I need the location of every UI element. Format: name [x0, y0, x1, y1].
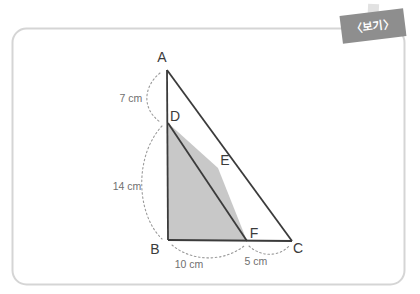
vertex-label-a: A: [157, 49, 167, 65]
dimension-arc-fc: [249, 246, 289, 254]
vertex-label-d: D: [170, 108, 180, 124]
dimension-label-bf: 10 cm: [175, 258, 204, 270]
figure-tag: 〈보기〉: [338, 0, 406, 44]
figure-container: 〈보기〉 7 cm 14 cm 10 cm 5 cm A B C D E F: [0, 0, 420, 294]
vertex-label-e: E: [220, 152, 229, 168]
vertex-label-c: C: [293, 240, 303, 256]
dimension-arc-bf: [172, 245, 244, 258]
dimension-label-fc: 5 cm: [245, 255, 268, 267]
dimension-arc-ad: [147, 73, 160, 122]
dimension-arc-db: [142, 126, 162, 239]
vertex-label-f: F: [250, 225, 259, 241]
vertex-label-b: B: [150, 241, 159, 257]
dimension-label-db: 14 cm: [113, 180, 142, 192]
geometry-figure: 〈보기〉 7 cm 14 cm 10 cm 5 cm A B C D E F: [0, 0, 420, 294]
segment-ab: [167, 70, 168, 240]
dimension-label-ad: 7 cm: [120, 92, 143, 104]
rounded-figure-frame: [13, 29, 405, 285]
segment-bc: [168, 240, 292, 241]
